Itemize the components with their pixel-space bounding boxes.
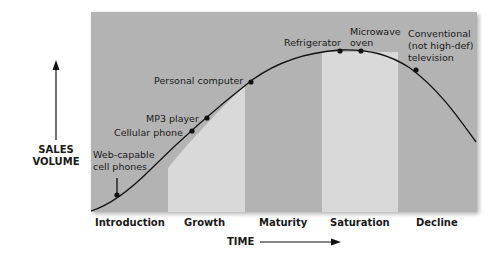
y-axis-arrow-icon bbox=[53, 60, 60, 70]
label-tv-3: television bbox=[408, 52, 454, 63]
stage-label-saturation: Saturation bbox=[330, 217, 390, 228]
point-pc bbox=[248, 79, 253, 84]
label-web-phones-2: cell phones bbox=[93, 161, 147, 172]
label-web-phones-1: Web-capable bbox=[93, 149, 155, 160]
label-microwave-1: Microwave bbox=[350, 26, 401, 37]
point-mp3 bbox=[204, 115, 209, 120]
x-axis-label: TIME bbox=[227, 236, 254, 247]
product-life-cycle-chart: Web-capable cell phones Cellular phone M… bbox=[0, 0, 502, 260]
point-cellular bbox=[189, 128, 194, 133]
label-fridge: Refrigerator bbox=[284, 37, 341, 48]
saturation-highlight bbox=[322, 52, 398, 212]
point-microwave bbox=[358, 48, 363, 53]
stage-label-growth: Growth bbox=[184, 217, 225, 228]
label-pc: Personal computer bbox=[154, 75, 243, 86]
x-axis-arrow-icon bbox=[331, 239, 341, 246]
label-microwave-2: oven bbox=[350, 37, 373, 48]
stage-label-decline: Decline bbox=[416, 217, 458, 228]
point-fridge bbox=[337, 48, 342, 53]
stage-band-introduction bbox=[91, 12, 168, 212]
stage-label-maturity: Maturity bbox=[259, 217, 308, 228]
y-axis-label-1: SALES bbox=[38, 144, 73, 155]
y-axis-label-2: VOLUME bbox=[33, 156, 80, 167]
label-tv-2: (not high-def) bbox=[408, 40, 473, 51]
point-tv bbox=[413, 67, 418, 72]
stage-label-introduction: Introduction bbox=[95, 217, 165, 228]
label-cellular: Cellular phone bbox=[114, 127, 183, 138]
point-web-phones bbox=[114, 192, 119, 197]
label-mp3: MP3 player bbox=[146, 113, 199, 124]
label-tv-1: Conventional bbox=[408, 28, 471, 39]
